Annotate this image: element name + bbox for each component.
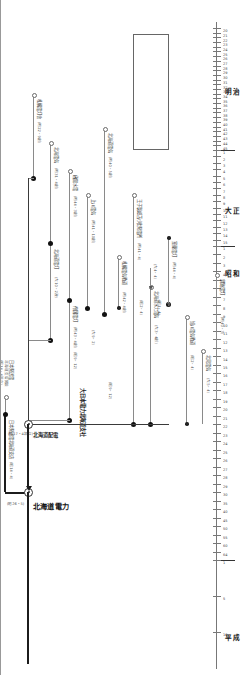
main-line-label: 北海道電力 bbox=[33, 502, 69, 511]
feeder-arrowhead-2 bbox=[167, 303, 171, 307]
side-note-2: (昭2・4) bbox=[139, 300, 143, 315]
branch-start-node-b15 bbox=[167, 236, 170, 239]
merge-bus-hokkaido-haiden bbox=[29, 424, 169, 425]
branch-period-b18: (明40・3) bbox=[220, 317, 224, 334]
main-merge-arrowhead bbox=[26, 486, 32, 491]
feeder-note-1: (大4・4) bbox=[153, 264, 157, 279]
branch-period-b6: (昭9・12) bbox=[73, 352, 77, 369]
riser-b2 bbox=[29, 340, 51, 341]
branch-period-b5: (明43・4創) bbox=[73, 327, 77, 348]
branch-line-b18 bbox=[216, 276, 217, 424]
branch-start-node-b16 bbox=[185, 315, 190, 320]
branch-label-b3: 北海道電灯 bbox=[54, 249, 59, 269]
branch-label-b2: 北海電気 bbox=[54, 147, 59, 163]
branch-start-node-b10 bbox=[132, 193, 137, 198]
branch-label-b15: 室蘭電灯 bbox=[172, 241, 177, 257]
branch-line-b9 bbox=[104, 130, 105, 314]
branch-label-b18: 釧路電灯 bbox=[220, 279, 225, 295]
branch-start-node-b9 bbox=[103, 127, 108, 132]
branch-start-node-b13 bbox=[4, 395, 9, 400]
branch-note-b13: 北海道支店開設 bbox=[4, 360, 8, 387]
branch-period-b14: (昭14・4) bbox=[9, 462, 13, 479]
branch-merge-node-b14 bbox=[4, 412, 9, 417]
merge-rule-hokuden bbox=[27, 424, 29, 492]
branch-label-b6: 大日本電力北海道支社 bbox=[80, 388, 87, 437]
branch-label-b17: 北見電気 bbox=[206, 355, 211, 371]
branch-line-b4 bbox=[69, 172, 70, 420]
merge-bus-top-rule bbox=[28, 178, 29, 424]
branch-period-b7: (明41・10創) bbox=[91, 220, 95, 243]
branch-period-b15: (明44・4) bbox=[172, 262, 176, 279]
feeder-arrowhead-1 bbox=[149, 286, 153, 290]
branch-period-b3: (大10・2改) bbox=[54, 277, 58, 298]
branch-label-b10: 王子製紙苫小牧発電所 bbox=[137, 199, 142, 238]
branch-start-node-b7 bbox=[86, 193, 91, 198]
branch-period-b9: (明40・5創) bbox=[108, 157, 112, 178]
branch-start-node-b1 bbox=[32, 93, 37, 98]
branch-merge-node-b2 bbox=[49, 241, 54, 246]
branch-label-b16: 旭川電気軌道 bbox=[190, 321, 195, 344]
branch-period-b12: (大3・4創) bbox=[154, 325, 158, 344]
branch-period-b17: (大5・4) bbox=[206, 378, 210, 393]
branch-line-b11 bbox=[118, 258, 119, 308]
lineage-diagram: 札幌電灯舎 (明22・9創) 北海電気 (明31・4創) 北海道電灯 (大10・… bbox=[0, 0, 247, 675]
branch-merge-node-b7 bbox=[86, 306, 91, 311]
branch-merge-node-b4 bbox=[68, 298, 73, 303]
branch-period-b2: (明31・4創) bbox=[54, 168, 58, 189]
branch-period-b16: (昭2・4) bbox=[190, 355, 194, 370]
branch-label-b13: 日本発送電 bbox=[9, 360, 14, 380]
branch-label-b4: 函館水電 bbox=[73, 175, 78, 191]
branch-end-node-b11 bbox=[117, 306, 120, 309]
main-line-period: (昭26・5) bbox=[7, 502, 24, 506]
branch-line-b12 bbox=[150, 288, 151, 424]
branch-label-b5: 帝国電灯 bbox=[73, 306, 78, 322]
branch-period-b10: (明41・4) bbox=[137, 243, 141, 260]
side-note-4: (昭9・12) bbox=[108, 382, 112, 399]
branch-merge-node-b9 bbox=[103, 312, 108, 317]
branch-line-b14 bbox=[4, 414, 6, 492]
side-note-3: (大9・2) bbox=[91, 330, 95, 345]
branch-line-b1 bbox=[33, 96, 34, 178]
branch-line-b17 bbox=[202, 352, 203, 424]
branch-line-b16 bbox=[186, 318, 187, 424]
branch-end-node-b16 bbox=[185, 422, 188, 425]
branch-label-b1: 札幌電灯舎 bbox=[37, 99, 42, 119]
chart-stage: 明治 大正 昭和 平成 2021222324252627282930313233… bbox=[0, 0, 247, 675]
branch-label-b7: 上川電気 bbox=[91, 199, 96, 215]
branch-start-node-b18 bbox=[215, 273, 220, 278]
figure-baseline bbox=[0, 0, 1, 675]
branch-start-node-b2 bbox=[49, 141, 54, 146]
merge-label-hokkaido-haiden: 北海道配電 bbox=[33, 432, 58, 439]
branch-label-b14: 日本発送電北海道支店 bbox=[9, 420, 14, 459]
branch-start-node-b4 bbox=[68, 169, 73, 174]
riser-b1 bbox=[29, 178, 34, 179]
side-note-1: (昭1・4) bbox=[157, 300, 161, 315]
branch-start-node-b11 bbox=[117, 255, 122, 260]
branch-line-b7 bbox=[87, 196, 88, 308]
riser-b3 bbox=[29, 420, 70, 421]
main-line-hokuden bbox=[27, 492, 29, 664]
branch-period-b4: (明44・3創) bbox=[73, 196, 77, 217]
branch-period-b1: (明22・9創) bbox=[37, 122, 41, 143]
branch-start-node-b17 bbox=[201, 349, 206, 354]
branch-period-b11: (明42・4創) bbox=[122, 292, 126, 313]
branch-label-b11: 札幌電気軌道 bbox=[122, 261, 127, 284]
feeder-arrow-line-1 bbox=[150, 268, 151, 288]
branch-line-b10 bbox=[133, 196, 134, 424]
branch-label-b9: 北海道電気 bbox=[108, 133, 113, 153]
